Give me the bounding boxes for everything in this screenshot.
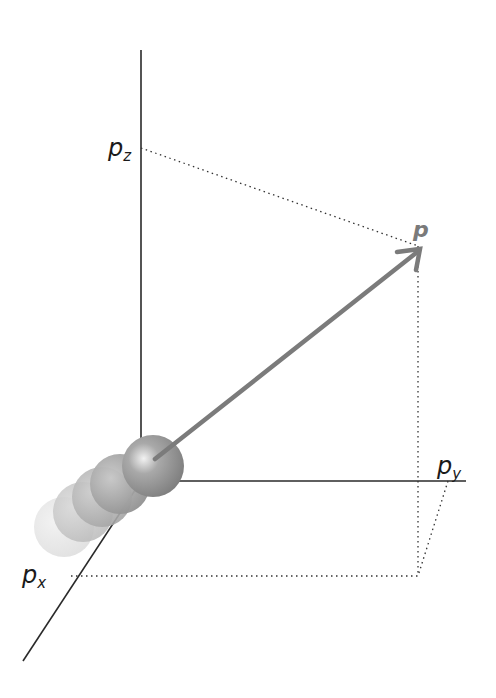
pz-projection xyxy=(141,148,418,246)
pz-label-base: p xyxy=(108,134,123,162)
px-label-sub: x xyxy=(37,574,46,592)
pz-label-sub: z xyxy=(123,147,131,165)
py-projection xyxy=(418,481,448,576)
py-label-base: p xyxy=(437,452,452,480)
px-label: px xyxy=(22,563,46,591)
py-label-sub: y xyxy=(452,465,461,483)
momentum-vector xyxy=(155,249,420,459)
momentum-vector-label: p xyxy=(413,219,429,241)
arrow-shaft xyxy=(155,253,416,459)
py-label: py xyxy=(437,454,461,482)
pz-label: pz xyxy=(108,136,131,164)
px-label-base: p xyxy=(22,561,37,589)
momentum-diagram xyxy=(0,0,496,698)
